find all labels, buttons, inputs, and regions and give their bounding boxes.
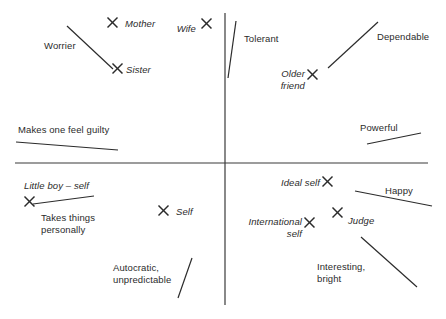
repertory-grid-figure: WorrierTolerantDependableMakes one feel … (0, 0, 446, 319)
construct-label: Tolerant (244, 33, 279, 45)
element-x-marker (157, 204, 170, 217)
element-label: Judge (348, 215, 374, 227)
element-label: Older friend (0, 68, 305, 91)
element-x-marker (331, 206, 344, 219)
construct-line (328, 22, 378, 68)
element-label: Ideal self (0, 177, 320, 189)
element-label: Wife (0, 23, 196, 35)
construct-label: Happy (385, 185, 413, 197)
element-x-marker (306, 68, 319, 81)
construct-label: Powerful (360, 122, 398, 134)
element-x-marker (303, 216, 316, 229)
construct-label: Worrier (44, 40, 76, 52)
construct-line (16, 142, 118, 150)
element-x-marker (200, 17, 213, 30)
construct-line (367, 133, 421, 144)
construct-label: Dependable (377, 31, 429, 43)
construct-label: Makes one feel guilty (18, 124, 109, 136)
element-x-marker (23, 195, 36, 208)
element-x-marker (321, 175, 334, 188)
construct-label: Interesting, bright (317, 261, 365, 284)
construct-line (178, 258, 192, 298)
construct-line (361, 237, 417, 287)
construct-label: Autocratic, unpredictable (113, 262, 171, 285)
construct-line (33, 196, 94, 204)
element-label: International self (0, 216, 302, 239)
